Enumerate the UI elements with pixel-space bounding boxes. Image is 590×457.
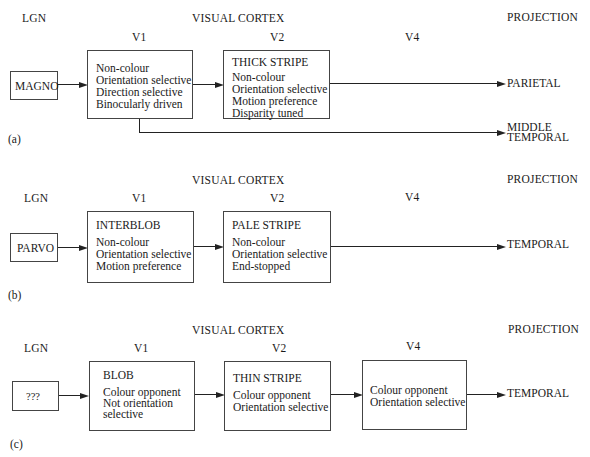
connector-line: [331, 246, 500, 247]
projection-temporal: TEMPORAL: [507, 238, 569, 250]
lgn-header: LGN: [22, 12, 46, 24]
v1-line: Non-colour: [96, 62, 149, 74]
lgn-unknown-box: ???: [12, 381, 59, 411]
v4-line: Colour opponent: [370, 384, 448, 396]
visual-cortex-header: VISUAL CORTEX: [192, 174, 285, 186]
v2-thick-stripe-box: THICK STRIPE Non-colour Orientation sele…: [223, 50, 330, 119]
v4-line: Orientation selective: [370, 396, 465, 408]
visual-cortex-header: VISUAL CORTEX: [192, 12, 285, 24]
v4-header: V4: [406, 340, 420, 352]
v2-line: Disparity tuned: [232, 107, 303, 119]
v2-thin-stripe-box: THIN STRIPE Colour opponent Orientation …: [224, 361, 331, 431]
connector-line: [330, 83, 500, 84]
projection-temporal: TEMPORAL: [507, 132, 569, 142]
v2-line: Colour opponent: [233, 389, 311, 401]
connector-line: [139, 132, 500, 133]
panel-label: (c): [10, 438, 23, 450]
v2-header: V2: [272, 342, 286, 354]
v1-line: Non-colour: [96, 236, 149, 248]
v4-header: V4: [405, 191, 419, 203]
v2-box-title: PALE STRIPE: [232, 219, 301, 231]
connector-line: [194, 246, 216, 247]
v4-box: Colour opponent Orientation selective: [362, 360, 467, 430]
lgn-box-label: ???: [26, 391, 40, 403]
v1-line: Direction selective: [96, 86, 183, 98]
v1-box: Non-colour Orientation selective Directi…: [87, 50, 193, 119]
v2-line: End-stopped: [232, 260, 290, 272]
v1-blob-box: BLOB Colour opponent Not orientation sel…: [89, 361, 195, 431]
v1-line: Binocularly driven: [96, 98, 183, 110]
v1-box-title: BLOB: [103, 369, 134, 381]
arrowhead-icon: [497, 130, 506, 136]
connector-line: [467, 394, 500, 395]
connector-line: [58, 84, 80, 85]
projection-header: PROJECTION: [507, 11, 578, 23]
panel-label: (b): [8, 289, 21, 301]
v2-line: Motion preference: [232, 95, 317, 107]
connector-line: [193, 84, 216, 85]
arrowhead-icon: [497, 392, 506, 398]
v1-header: V1: [132, 192, 146, 204]
v2-line: Non-colour: [232, 236, 285, 248]
projection-header: PROJECTION: [507, 173, 578, 185]
projection-temporal: TEMPORAL: [507, 387, 569, 399]
v4-header: V4: [405, 31, 419, 43]
v1-header: V1: [134, 342, 148, 354]
lgn-parvo-box: PARVO: [10, 233, 58, 262]
lgn-box-label: PARVO: [17, 242, 54, 254]
visual-cortex-header: VISUAL CORTEX: [192, 324, 285, 336]
v2-header: V2: [270, 31, 284, 43]
v2-line: Orientation selective: [232, 248, 327, 260]
connector-line: [139, 119, 140, 133]
v1-header: V1: [132, 31, 146, 43]
lgn-box-label: MAGNO: [15, 80, 58, 92]
v1-box-title: INTERBLOB: [96, 219, 161, 231]
arrowhead-icon: [80, 393, 89, 399]
lgn-header: LGN: [24, 192, 48, 204]
v2-header: V2: [270, 192, 284, 204]
v2-box-title: THICK STRIPE: [232, 56, 308, 68]
v2-line: Non-colour: [232, 71, 285, 83]
v2-pale-stripe-box: PALE STRIPE Non-colour Orientation selec…: [223, 211, 331, 283]
v1-line: Orientation selective: [96, 248, 191, 260]
connector-line: [195, 394, 217, 395]
v1-line: Orientation selective: [96, 74, 191, 86]
panel-label: (a): [8, 133, 21, 145]
connector-line: [331, 394, 355, 395]
v1-line: Motion preference: [96, 260, 181, 272]
v2-line: Orientation selective: [233, 401, 328, 413]
connector-line: [58, 247, 80, 248]
lgn-header: LGN: [24, 342, 48, 354]
lgn-magno-box: MAGNO: [10, 71, 58, 100]
projection-parietal: PARIETAL: [507, 77, 561, 89]
arrowhead-icon: [497, 81, 506, 87]
v1-interblob-box: INTERBLOB Non-colour Orientation selecti…: [87, 211, 194, 283]
v1-line: selective: [103, 408, 143, 420]
projection-header: PROJECTION: [508, 323, 579, 335]
arrowhead-icon: [497, 244, 506, 250]
v2-line: Orientation selective: [232, 83, 327, 95]
v2-box-title: THIN STRIPE: [233, 372, 302, 384]
connector-line: [59, 395, 81, 396]
